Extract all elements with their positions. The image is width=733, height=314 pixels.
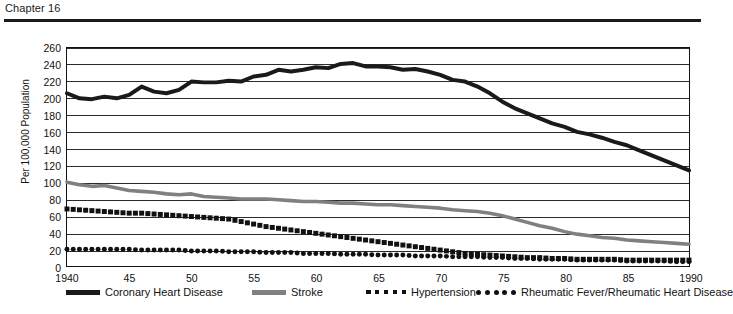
y-tick-label: 180	[27, 111, 61, 121]
series-line	[67, 63, 689, 170]
x-tick-label: 1990	[679, 272, 702, 284]
legend-swatch	[252, 290, 286, 295]
y-tick-label: 220	[27, 77, 61, 87]
series-markers	[65, 247, 692, 265]
x-tick-label: 75	[498, 272, 510, 284]
series-lines	[67, 48, 689, 266]
x-tick-label: 50	[186, 272, 198, 284]
legend-label: Stroke	[291, 286, 323, 299]
y-tick-label: 100	[27, 178, 61, 188]
y-tick-label: 120	[27, 161, 61, 171]
plot-area: 020406080100120140160180200220240260 194…	[66, 47, 690, 267]
header-divider	[4, 19, 701, 22]
legend-label: Hypertension	[411, 286, 476, 299]
y-tick-label: 200	[27, 94, 61, 104]
y-tick-label: 260	[27, 43, 61, 53]
x-tick-label: 45	[124, 272, 136, 284]
y-tick-label: 40	[27, 229, 61, 239]
legend-label: Rheumatic Fever/Rheumatic Heart Disease	[521, 286, 733, 299]
legend-swatch	[66, 290, 100, 295]
legend-swatch	[366, 289, 406, 296]
y-tick-label: 80	[27, 195, 61, 205]
legend-item: Coronary Heart Disease	[66, 284, 223, 300]
x-tick-label: 1940	[55, 272, 78, 284]
x-tick-label: 65	[373, 272, 385, 284]
y-tick-label: 160	[27, 128, 61, 138]
y-tick-label: 60	[27, 212, 61, 222]
y-tick-label: 140	[27, 145, 61, 155]
x-tick-label: 80	[560, 272, 572, 284]
y-tick-label: 20	[27, 246, 61, 256]
x-tick-label: 55	[248, 272, 260, 284]
x-tick-label: 60	[311, 272, 323, 284]
legend-label: Coronary Heart Disease	[105, 286, 223, 299]
legend-item: Hypertension	[366, 284, 476, 300]
x-tick-label: 85	[623, 272, 635, 284]
legend-swatch	[476, 289, 516, 296]
chart-legend: Coronary Heart DiseaseStrokeHypertension…	[66, 284, 696, 304]
chapter-label: Chapter 16	[5, 2, 60, 15]
x-tick-label: 70	[436, 272, 448, 284]
legend-item: Rheumatic Fever/Rheumatic Heart Disease	[476, 284, 733, 300]
y-tick-label: 240	[27, 60, 61, 70]
figure-container: Per 100,000 Population 02040608010012014…	[0, 26, 705, 314]
legend-item: Stroke	[252, 284, 323, 300]
